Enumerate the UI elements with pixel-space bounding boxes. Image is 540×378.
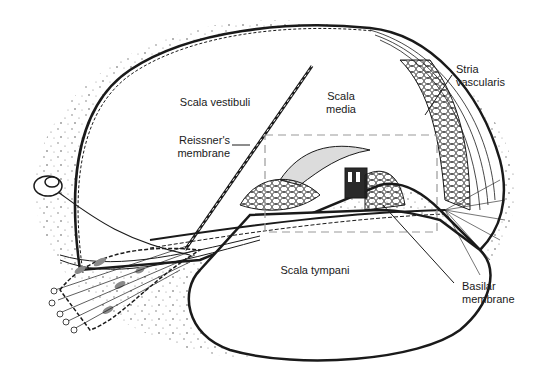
label-scala-media: Scala media [316,90,366,116]
label-stria-line2: vascularis [456,76,536,89]
label-scala-media-line2: media [316,103,366,116]
label-scala-tympani: Scala tympani [260,264,370,277]
label-scala-vestibuli: Scala vestibuli [160,96,270,109]
label-basilar-membrane: Basilar membrane [462,280,538,306]
label-scala-media-line1: Scala [316,90,366,103]
label-basilar-line2: membrane [462,293,538,306]
cochlea-diagram [0,0,540,378]
label-reissners-membrane: Reissner's membrane [160,134,230,160]
label-stria-vascularis: Stria vascularis [456,63,536,89]
label-basilar-line1: Basilar [462,280,538,293]
label-reissners-line2: membrane [160,147,230,160]
label-stria-line1: Stria [456,63,536,76]
label-reissners-line1: Reissner's [160,134,230,147]
